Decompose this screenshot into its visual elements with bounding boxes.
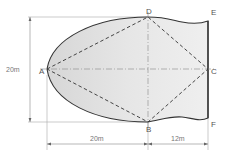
point-label-A: A [39, 67, 45, 76]
point-label-D: D [146, 7, 152, 16]
width-dimensions [47, 143, 208, 146]
site-plan-diagram: A D B C E F 20m 20m 12m [0, 0, 230, 157]
height-dimension [29, 17, 32, 122]
right-width-label: 12m [171, 135, 185, 142]
plot-shape [47, 17, 208, 122]
left-width-label: 20m [90, 135, 104, 142]
point-label-B: B [146, 125, 151, 134]
point-label-C: C [211, 67, 217, 76]
point-label-F: F [211, 120, 216, 129]
point-label-E: E [211, 8, 216, 17]
height-label: 20m [6, 66, 20, 73]
